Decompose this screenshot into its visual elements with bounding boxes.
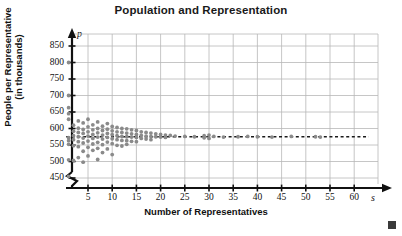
data-point (101, 143, 105, 147)
data-point (72, 138, 76, 142)
data-point (130, 139, 134, 143)
data-point (193, 135, 197, 139)
data-point (96, 140, 100, 144)
data-point (135, 129, 139, 133)
data-point (91, 128, 95, 132)
gridlines (72, 34, 378, 184)
y-tick-label: 850 (30, 40, 64, 50)
data-point (120, 135, 124, 139)
y-tick-label: 550 (30, 139, 64, 149)
data-point (130, 132, 134, 136)
data-point (72, 144, 76, 148)
data-point (67, 61, 71, 65)
data-point (110, 129, 114, 133)
data-point (105, 122, 109, 126)
data-point (86, 145, 90, 149)
data-point (115, 138, 119, 142)
x-tick-label: 15 (125, 192, 147, 202)
data-point (72, 123, 76, 127)
data-point (101, 151, 105, 155)
data-point (110, 142, 114, 146)
data-point (76, 119, 80, 123)
data-point (86, 130, 90, 134)
data-point (120, 138, 124, 142)
data-point (246, 135, 250, 139)
data-point (76, 145, 80, 149)
data-point (115, 143, 119, 147)
data-point (110, 125, 114, 129)
data-point (144, 137, 148, 141)
y-tick-label: 800 (30, 57, 64, 67)
data-point (139, 137, 143, 141)
x-tick-label: 30 (198, 192, 220, 202)
data-point (76, 126, 80, 130)
data-point (86, 139, 90, 143)
x-tick-label: 35 (222, 192, 244, 202)
data-point (91, 148, 95, 152)
data-point (105, 140, 109, 144)
corner-square-mark (388, 221, 396, 229)
data-point (72, 159, 76, 163)
data-point (96, 135, 100, 139)
data-point (67, 174, 71, 178)
data-point (125, 127, 129, 131)
data-point (222, 135, 226, 139)
data-point (81, 149, 85, 153)
data-point (67, 106, 71, 110)
data-point (86, 134, 90, 138)
x-tick-label: 20 (150, 192, 172, 202)
data-point (168, 134, 172, 138)
data-point (202, 136, 206, 140)
data-point (81, 136, 85, 140)
data-point (86, 125, 90, 129)
data-point (81, 121, 85, 125)
data-point (110, 153, 114, 157)
data-point (76, 140, 80, 144)
y-tick-label: 750 (30, 73, 64, 83)
data-point (125, 139, 129, 143)
data-point (173, 134, 177, 138)
data-point (236, 135, 240, 139)
data-point (105, 127, 109, 131)
data-point (76, 131, 80, 135)
data-point (67, 117, 71, 121)
x-tick-label: 60 (343, 192, 365, 202)
data-point (91, 123, 95, 127)
data-point (120, 127, 124, 131)
data-point (135, 140, 139, 144)
data-point (91, 133, 95, 137)
x-tick-label: 5 (77, 192, 99, 202)
data-point (164, 136, 168, 140)
data-point (105, 136, 109, 140)
data-points (67, 61, 322, 179)
data-point (149, 138, 153, 142)
data-point (96, 127, 100, 131)
data-point (96, 146, 100, 150)
x-tick-label: 40 (246, 192, 268, 202)
x-tick-label: 10 (101, 192, 123, 202)
data-point (207, 137, 211, 141)
data-point (183, 135, 187, 139)
data-point (115, 130, 119, 134)
data-point (130, 128, 134, 132)
data-point (105, 147, 109, 151)
data-point (101, 133, 105, 137)
x-tick-label: 55 (319, 192, 341, 202)
data-point (67, 158, 71, 162)
data-point (110, 133, 114, 137)
data-point (101, 137, 105, 141)
data-point (144, 131, 148, 135)
data-point (81, 160, 85, 164)
data-point (207, 133, 211, 137)
y-tick-label: 700 (30, 90, 64, 100)
data-point (76, 156, 80, 160)
data-point (212, 135, 216, 139)
data-point (86, 117, 90, 121)
data-point (149, 135, 153, 139)
data-point (125, 142, 129, 146)
data-point (135, 136, 139, 140)
data-point (86, 154, 90, 158)
data-point (67, 139, 71, 143)
data-point (72, 134, 76, 138)
y-tick-label: 650 (30, 106, 64, 116)
